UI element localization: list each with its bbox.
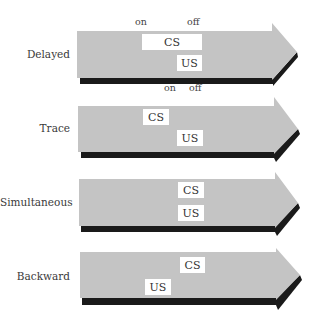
cs-box: CS bbox=[180, 257, 205, 273]
row-label-backward: Backward bbox=[0, 270, 70, 282]
us-box: US bbox=[145, 279, 171, 295]
row-backward: Backward CS US bbox=[0, 0, 319, 327]
